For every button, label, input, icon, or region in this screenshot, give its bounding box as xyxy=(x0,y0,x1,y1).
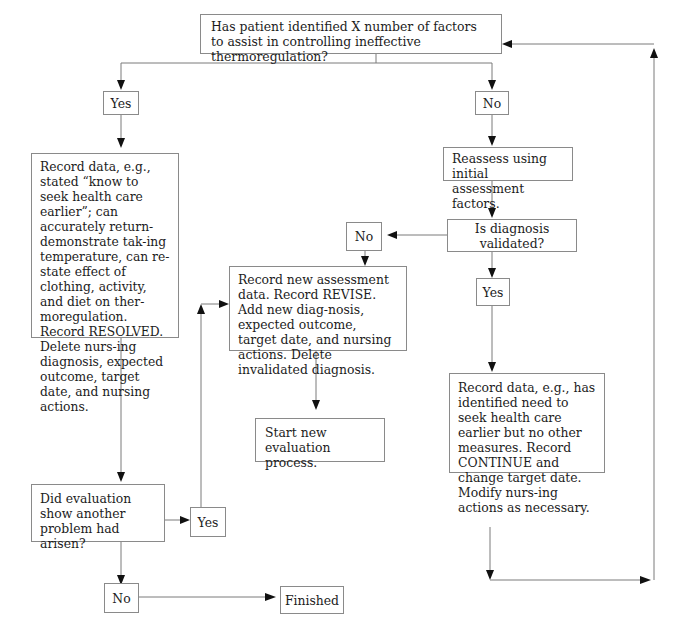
yes-box-2: Yes xyxy=(476,278,510,306)
no-label-3: No xyxy=(112,591,130,606)
question-validated-text: Is diagnosis validated? xyxy=(450,221,574,251)
record-revise-box: Record new assessment data. Record REVIS… xyxy=(229,266,407,351)
yes-label-1: Yes xyxy=(111,96,132,111)
record-continue-box: Record data, e.g., has identified need t… xyxy=(449,373,605,473)
record-revise-text: Record new assessment data. Record REVIS… xyxy=(238,272,391,377)
no-label-1: No xyxy=(483,96,501,111)
question-another-box: Did evaluation show another problem had … xyxy=(31,484,165,542)
reassess-box: Reassess using initial assessment factor… xyxy=(443,147,573,181)
question-main-text: Has patient identified X number of facto… xyxy=(211,19,477,64)
reassess-text: Reassess using initial assessment factor… xyxy=(452,151,547,211)
yes-label-2: Yes xyxy=(483,285,504,300)
yes-box-1: Yes xyxy=(103,91,139,115)
finished-text: Finished xyxy=(285,593,339,608)
finished-box: Finished xyxy=(280,586,344,614)
no-box-3: No xyxy=(104,583,139,613)
record-resolved-text: Record data, e.g., stated “know to seek … xyxy=(40,160,169,414)
start-new-box: Start new evaluation process. xyxy=(255,418,385,462)
yes-label-3: Yes xyxy=(198,515,219,530)
yes-box-3: Yes xyxy=(190,507,226,537)
start-new-text: Start new evaluation process. xyxy=(265,425,330,470)
question-main-box: Has patient identified X number of facto… xyxy=(200,14,502,54)
no-label-2: No xyxy=(355,229,373,244)
record-resolved-box: Record data, e.g., stated “know to seek … xyxy=(31,153,179,338)
no-box-2: No xyxy=(346,222,382,251)
record-continue-text: Record data, e.g., has identified need t… xyxy=(458,380,595,515)
question-another-text: Did evaluation show another problem had … xyxy=(40,491,131,551)
no-box-1: No xyxy=(475,91,509,115)
question-validated-box: Is diagnosis validated? xyxy=(447,219,577,252)
